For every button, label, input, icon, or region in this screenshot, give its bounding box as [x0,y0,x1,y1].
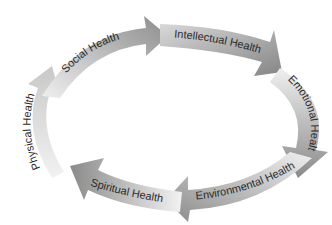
wellness-cycle-diagram: Physical Health Social Health Intellectu… [0,0,332,225]
segment-environmental-health: Environmental Health [166,152,312,222]
segment-social-health: Social Health [42,16,168,98]
arrow-social [42,16,168,98]
segment-intellectual-health: Intellectual Health [160,24,282,76]
segment-spiritual-health: Spiritual Health [70,158,182,212]
